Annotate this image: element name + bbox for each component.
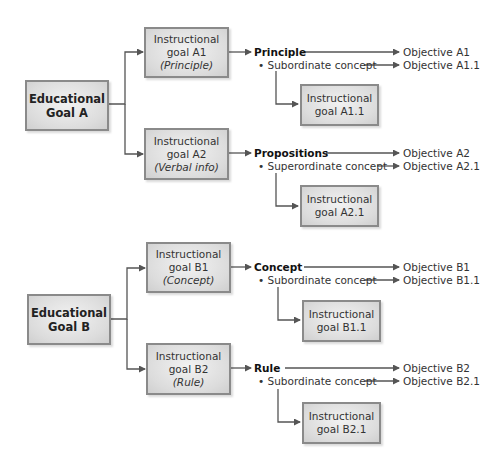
box-text: Instructional: [154, 135, 220, 148]
objective-label: Objective B2: [403, 362, 470, 374]
objective-label: Objective A2: [403, 147, 470, 159]
sub-concept-label: • Subordinate concept: [258, 274, 377, 286]
goal-label: Educational: [29, 92, 105, 106]
instructional-goal-b2-box: Instructional goal B2 (Rule): [146, 343, 231, 395]
goal-type: (Principle): [160, 59, 213, 72]
category-label: Rule: [254, 362, 280, 374]
instructional-goal-b1-box: Instructional goal B1 (Concept): [146, 242, 231, 293]
box-text: goal A2.1: [315, 206, 365, 219]
educational-goal-b-box: Educational Goal B: [27, 294, 111, 345]
objective-label: Objective B2.1: [403, 375, 480, 387]
instructional-goal-a1-1-box: Instructional goal A1.1: [300, 84, 379, 126]
box-text: goal B2.1: [317, 423, 367, 436]
category-label: Principle: [254, 46, 306, 58]
goal-label: Educational: [31, 306, 107, 320]
objective-label: Objective B1: [403, 261, 470, 273]
instructional-goal-a1-box: Instructional goal A1 (Principle): [144, 27, 229, 78]
instructional-goal-a2-box: Instructional goal A2 (Verbal info): [144, 128, 229, 180]
objective-label: Objective A2.1: [403, 160, 480, 172]
box-text: goal B1: [169, 261, 209, 274]
educational-goal-a-box: Educational Goal A: [25, 80, 109, 131]
sub-concept-label: • Superordinate concept: [258, 160, 387, 172]
box-text: Instructional: [156, 350, 222, 363]
instructional-goal-a2-1-box: Instructional goal A2.1: [300, 185, 379, 227]
box-text: goal A1.1: [315, 105, 365, 118]
box-text: Instructional: [309, 308, 375, 321]
instructional-goal-b1-1-box: Instructional goal B1.1: [302, 300, 381, 342]
box-text: goal A1: [167, 46, 207, 59]
box-text: Instructional: [307, 193, 373, 206]
sub-concept-label: • Subordinate concept: [258, 59, 377, 71]
instructional-goal-b2-1-box: Instructional goal B2.1: [302, 402, 381, 444]
objective-label: Objective A1.1: [403, 59, 480, 71]
box-text: goal A2: [167, 148, 207, 161]
box-text: Instructional: [307, 92, 373, 105]
goal-type: (Rule): [173, 376, 205, 389]
category-label: Concept: [254, 261, 302, 273]
box-text: Instructional: [309, 410, 375, 423]
category-label: Propositions: [254, 147, 328, 159]
box-text: goal B1.1: [317, 321, 367, 334]
objective-label: Objective A1: [403, 46, 470, 58]
objective-label: Objective B1.1: [403, 274, 480, 286]
sub-concept-label: • Subordinate concept: [258, 375, 377, 387]
box-text: goal B2: [169, 363, 209, 376]
goal-label: Goal A: [46, 106, 88, 120]
box-text: Instructional: [156, 248, 222, 261]
box-text: Instructional: [154, 33, 220, 46]
goal-type: (Concept): [163, 274, 215, 287]
goal-type: (Verbal info): [154, 161, 219, 174]
goal-label: Goal B: [48, 320, 90, 334]
